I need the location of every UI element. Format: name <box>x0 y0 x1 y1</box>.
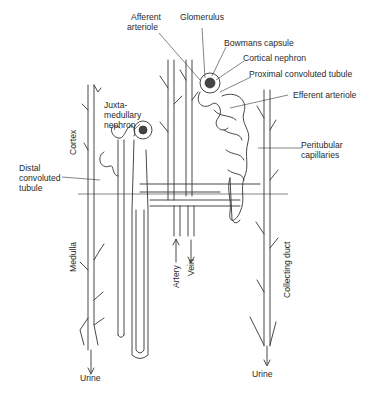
label-juxtamedullary-line1: Juxta- <box>104 100 127 110</box>
label-distal-line2: convoluted <box>19 173 61 183</box>
label-peritubular-line1: Peritubular <box>301 140 343 150</box>
label-cortical-nephron: Cortical nephron <box>243 53 306 63</box>
label-afferent-arteriole-line2: arteriole <box>127 22 158 32</box>
label-juxtamedullary-line2: medullary <box>104 110 141 120</box>
label-bowmans-capsule: Bowmans capsule <box>224 38 294 48</box>
left-collecting-duct <box>80 85 104 374</box>
label-collecting-duct: Collecting duct <box>282 242 292 298</box>
label-distal-line3: tubule <box>19 183 42 193</box>
nephron-diagram: Afferent arteriole Glomerulus Bowmans ca… <box>0 0 382 393</box>
label-artery: Artery <box>171 265 181 288</box>
central-vessels <box>140 60 260 263</box>
label-distal-line1: Distal <box>19 163 41 173</box>
cortical-nephron <box>198 73 249 223</box>
label-proximal-convoluted-tubule: Proximal convoluted tubule <box>249 69 352 79</box>
label-vein: Vein <box>186 259 196 276</box>
label-cortex: Cortex <box>68 130 78 155</box>
diagram-drawing <box>0 0 382 393</box>
label-medulla: Medulla <box>68 242 78 272</box>
right-collecting-duct <box>250 90 278 366</box>
label-juxtamedullary-line3: nephron <box>104 120 136 130</box>
label-efferent-arteriole: Efferent arteriole <box>293 90 356 100</box>
label-peritubular-line2: capillaries <box>301 150 339 160</box>
label-glomerulus: Glomerulus <box>180 12 224 22</box>
leader-lines <box>62 28 302 180</box>
juxtamedullary-nephron <box>100 121 152 359</box>
label-urine-left: Urine <box>80 373 101 383</box>
label-urine-right: Urine <box>252 369 273 379</box>
label-afferent-arteriole-line1: Afferent <box>131 12 161 22</box>
